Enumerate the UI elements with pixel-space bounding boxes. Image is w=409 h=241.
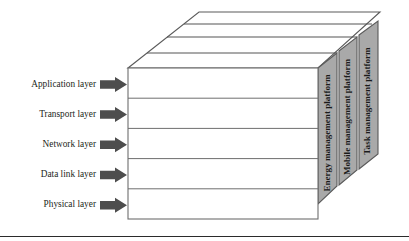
- box-front-face: [128, 68, 318, 219]
- arrow-icon-application: [100, 77, 127, 92]
- figure-container: Application layer Transport layer Networ…: [0, 0, 409, 241]
- layer-label-application: Application layer: [31, 79, 97, 89]
- platform-label-energy: Energy management platform: [322, 74, 332, 192]
- arrow-icon-transport: [100, 107, 127, 122]
- layer-label-transport: Transport layer: [39, 109, 97, 119]
- arrow-icon-physical: [100, 198, 127, 213]
- platform-label-mobile: Mobile management platform: [342, 58, 352, 175]
- arrow-icon-network: [100, 137, 127, 152]
- layer-label-network: Network layer: [43, 139, 97, 149]
- arrow-icon-data-link: [100, 168, 127, 183]
- layer-label-data-link: Data link layer: [41, 169, 97, 179]
- layer-label-physical: Physical layer: [44, 199, 97, 209]
- architecture-diagram: Application layer Transport layer Networ…: [0, 0, 409, 241]
- platform-label-task: Task management platform: [362, 47, 372, 155]
